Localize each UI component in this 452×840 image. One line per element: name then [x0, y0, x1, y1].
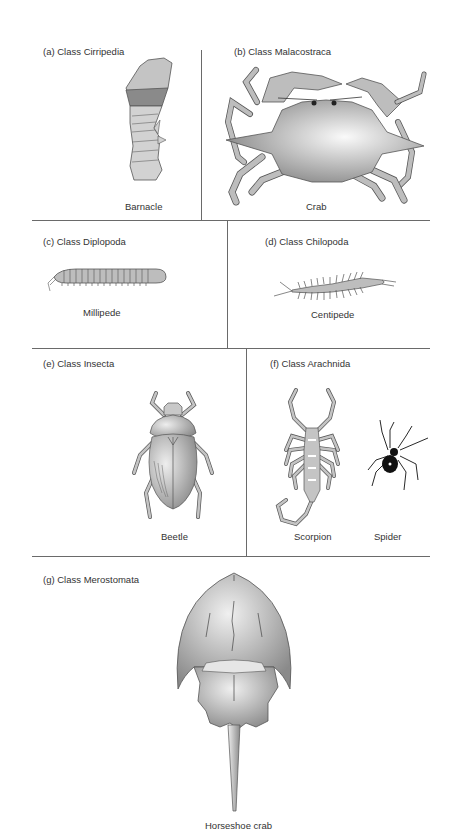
panel-d-title: (d) Class Chilopoda [265, 236, 348, 247]
beetle-illustration [128, 393, 218, 525]
organism-scorpion: Scorpion [294, 531, 332, 542]
spider-illustration [368, 420, 430, 496]
centipede-illustration [272, 270, 396, 304]
panel-e-title: (e) Class Insecta [43, 358, 114, 369]
organism-horseshoe-crab: Horseshoe crab [205, 820, 272, 831]
organism-spider: Spider [374, 531, 401, 542]
panel-c-title: (c) Class Diplopoda [43, 236, 126, 247]
divider-ef [246, 348, 247, 556]
divider-cd [227, 220, 228, 348]
panel-b-title: (b) Class Malacostraca [234, 46, 331, 57]
organism-millipede: Millipede [83, 307, 121, 318]
barnacle-illustration [118, 58, 178, 183]
organism-crab: Crab [306, 201, 327, 212]
divider-row3 [32, 556, 430, 557]
panel-a-title: (a) Class Cirripedia [43, 46, 124, 57]
organism-barnacle: Barnacle [125, 201, 163, 212]
organism-centipede: Centipede [311, 309, 354, 320]
horseshoe-crab-illustration [176, 571, 296, 816]
crab-illustration [222, 62, 430, 210]
divider-row1 [32, 220, 430, 221]
divider-ab [201, 50, 202, 220]
millipede-illustration [46, 265, 170, 295]
organism-beetle: Beetle [161, 531, 188, 542]
scorpion-illustration [272, 390, 352, 530]
panel-f-title: (f) Class Arachnida [270, 358, 350, 369]
divider-row2 [32, 348, 430, 349]
panel-g-title: (g) Class Merostomata [43, 574, 139, 585]
